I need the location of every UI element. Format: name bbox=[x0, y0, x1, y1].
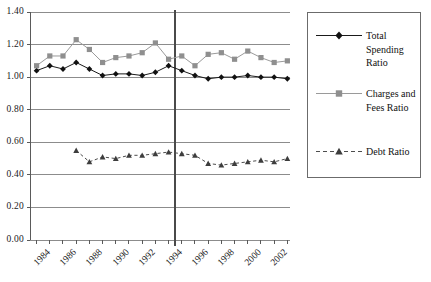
legend-label-charges-and-fees-ratio: Charges and Fees Ratio bbox=[366, 87, 420, 114]
y-tick-label: 0.60 bbox=[0, 136, 24, 146]
y-tick-label: 0.80 bbox=[0, 104, 24, 114]
chart-legend: Total Spending Ratio Charges and Fees Ra… bbox=[307, 12, 421, 178]
y-tick-label: 0.00 bbox=[0, 234, 24, 244]
y-tick-label: 1.40 bbox=[0, 6, 24, 16]
legend-label-debt-ratio: Debt Ratio bbox=[366, 145, 410, 159]
y-tick-label: 1.20 bbox=[0, 39, 24, 49]
legend-item-total-spending-ratio: Total Spending Ratio bbox=[314, 29, 420, 70]
legend-key-diamond-icon bbox=[314, 29, 364, 42]
series-charges-and-fees-ratio bbox=[34, 37, 290, 68]
plot-area: 0.000.200.400.600.801.001.201.40 1984198… bbox=[0, 0, 300, 282]
legend-item-debt-ratio: Debt Ratio bbox=[314, 145, 410, 159]
legend-key-triangle-icon bbox=[314, 145, 364, 158]
y-tick-label: 0.20 bbox=[0, 201, 24, 211]
legend-key-square-icon bbox=[314, 87, 364, 100]
data-series-layer bbox=[34, 37, 291, 168]
chart-figure: 0.000.200.400.600.801.001.201.40 1984198… bbox=[0, 0, 431, 282]
gridlines bbox=[30, 12, 290, 240]
plot-svg bbox=[0, 0, 300, 282]
y-tick-label: 1.00 bbox=[0, 71, 24, 81]
legend-label-total-spending-ratio: Total Spending Ratio bbox=[366, 29, 420, 70]
series-debt-ratio bbox=[73, 148, 290, 168]
legend-item-charges-and-fees-ratio: Charges and Fees Ratio bbox=[314, 87, 420, 114]
series-total-spending-ratio bbox=[34, 60, 291, 82]
axes bbox=[27, 12, 288, 244]
y-tick-label: 0.40 bbox=[0, 169, 24, 179]
